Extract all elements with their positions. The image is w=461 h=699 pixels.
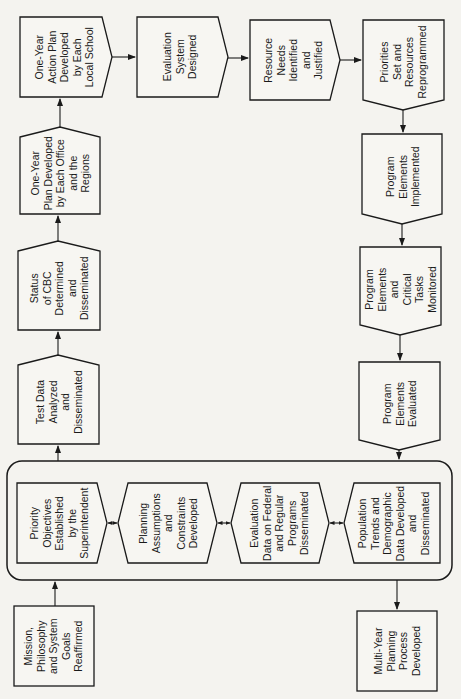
label-test-data: Test Data Analyzed and Disseminated: [18, 360, 99, 444]
label-mission: Mission, Philosophy and System Goals Rea…: [14, 606, 94, 686]
label-multi-year: Multi-Year Planning Process Developed: [357, 611, 437, 691]
label-evaluation-system: Evaluation System Designed: [137, 17, 223, 97]
flowchart-shapes: [0, 0, 461, 699]
label-resource-needs: Resource Needs Identified and Justified: [250, 20, 336, 100]
label-priority-objectives: Priority Objectives Established by the S…: [17, 483, 103, 563]
label-population-trends: Population Trends and Demographic Data D…: [348, 483, 440, 563]
label-evaluation-data: Evaluation Data on Federal and Regular P…: [235, 483, 325, 563]
label-one-year-action: One-Year Action Plan Developed by Each L…: [20, 17, 108, 97]
label-program-implemented: Program Elements Implemented: [362, 134, 442, 220]
label-planning-assumptions: Planning Assumptions and Constraints Dev…: [122, 483, 214, 563]
label-priorities-set: Priorities Set and Resources Reprogramme…: [363, 20, 444, 104]
label-program-evaluated: Program Elements Evaluated: [359, 362, 440, 446]
label-status-cbc: Status of CBC Determined and Disseminate…: [18, 246, 100, 330]
label-one-year-plan: One-Year Plan Developed by Each Office a…: [20, 132, 100, 214]
label-program-monitored: Program Elements and Critical Tasks Moni…: [360, 247, 441, 331]
flowchart-canvas: One-Year Action Plan Developed by Each L…: [0, 0, 461, 699]
